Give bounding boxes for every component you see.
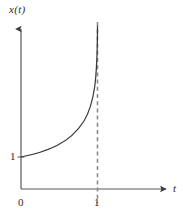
y-axis-label: x(t) <box>9 4 25 15</box>
x-tick-label-one: 1 <box>94 197 100 208</box>
y-tick-label-one: 1 <box>10 151 16 162</box>
x-axis-label: t <box>173 183 176 194</box>
chart-figure: x(t) t 0 1 1 <box>0 0 183 216</box>
plot-canvas <box>0 0 183 216</box>
curve-x-of-t <box>21 26 98 157</box>
origin-tick-label: 0 <box>18 197 24 208</box>
